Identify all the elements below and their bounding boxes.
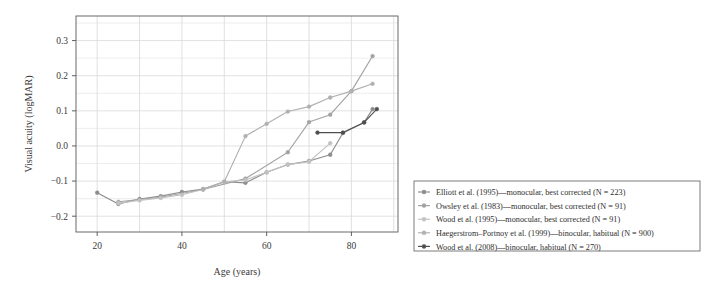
series-marker xyxy=(371,54,375,58)
series-marker xyxy=(328,96,332,100)
legend-swatch-marker xyxy=(422,204,426,208)
series-marker xyxy=(222,180,226,184)
y-axis-title: Visual acuity (logMAR) xyxy=(23,75,35,172)
y-tick-label: 0.3 xyxy=(56,36,68,46)
visual-acuity-vs-age-line-chart: 20406080 −0.2−0.10.00.10.20.3 Age (years… xyxy=(0,0,708,287)
legend-item-label: Wood et al. (1995)—monocular, best corre… xyxy=(436,215,620,224)
y-tick-label: 0.2 xyxy=(56,71,68,81)
series-marker xyxy=(328,141,332,145)
series-marker xyxy=(265,122,269,126)
legend-item[interactable]: Owsley et al. (1983)—monocular, best cor… xyxy=(418,202,626,211)
series-marker xyxy=(286,110,290,114)
y-tick-label: 0.0 xyxy=(56,141,68,151)
x-tick-label: 60 xyxy=(262,241,272,251)
x-axis-title: Age (years) xyxy=(214,266,261,278)
legend-swatch-marker xyxy=(422,217,426,221)
x-tick-label: 80 xyxy=(347,241,357,251)
legend-item-label: Elliott et al. (1995)—monocular, best co… xyxy=(436,188,626,197)
series-marker xyxy=(349,89,353,93)
legend-item-label: Owsley et al. (1983)—monocular, best cor… xyxy=(436,202,626,211)
series-marker xyxy=(95,191,99,195)
series-marker xyxy=(371,107,375,111)
series-marker xyxy=(159,196,163,200)
series-marker xyxy=(307,160,311,164)
legend-item[interactable]: Elliott et al. (1995)—monocular, best co… xyxy=(418,188,626,197)
legend-swatch-marker xyxy=(422,244,426,248)
legend-item[interactable]: Wood et al. (1995)—monocular, best corre… xyxy=(418,215,620,224)
legend-swatch-marker xyxy=(422,190,426,194)
x-tick-label: 40 xyxy=(177,241,187,251)
series-marker xyxy=(244,178,248,182)
legend-item-label: Haegerstrom–Portnoy et al. (1999)—binocu… xyxy=(436,229,654,238)
y-tick-label: −0.2 xyxy=(51,212,68,222)
series-marker xyxy=(201,187,205,191)
series-marker xyxy=(328,113,332,117)
legend[interactable]: Elliott et al. (1995)—monocular, best co… xyxy=(414,181,700,252)
x-tick-label: 20 xyxy=(92,241,102,251)
series-marker xyxy=(341,131,345,135)
series-marker xyxy=(328,153,332,157)
series-marker xyxy=(116,201,120,205)
legend-item-label: Wood et al. (2008)—binocular, habitual (… xyxy=(436,243,601,252)
series-marker xyxy=(286,163,290,167)
legend-item[interactable]: Wood et al. (2008)—binocular, habitual (… xyxy=(418,243,601,252)
y-tick-label: 0.1 xyxy=(56,106,68,116)
series-marker xyxy=(244,134,248,138)
series-marker xyxy=(265,170,269,174)
series-marker xyxy=(138,198,142,202)
y-tick-label: −0.1 xyxy=(51,176,68,186)
series-marker xyxy=(286,150,290,154)
series-marker xyxy=(307,120,311,124)
series-marker xyxy=(362,121,366,125)
series-marker xyxy=(307,105,311,109)
series-marker xyxy=(375,107,379,111)
legend-item[interactable]: Haegerstrom–Portnoy et al. (1999)—binocu… xyxy=(418,229,654,238)
series-marker xyxy=(180,193,184,197)
series-marker xyxy=(316,131,320,135)
series-marker xyxy=(371,82,375,86)
legend-swatch-marker xyxy=(422,231,426,235)
figure-container: 20406080 −0.2−0.10.00.10.20.3 Age (years… xyxy=(0,0,708,287)
